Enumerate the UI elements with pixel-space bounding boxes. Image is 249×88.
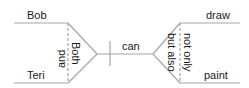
predicate-bottom-word: paint	[204, 69, 228, 81]
diagram-canvas: Bob Teri Both and can not only but also …	[0, 0, 249, 88]
subject-conjunction-and: and	[55, 50, 67, 68]
subject-top-word: Bob	[27, 9, 47, 21]
verb-word: can	[122, 40, 140, 52]
subject-conjunction-both: Both	[70, 42, 82, 65]
subject-bottom-word: Teri	[27, 69, 45, 81]
sentence-diagram: Bob Teri Both and can not only but also …	[0, 0, 249, 88]
predicate-conjunction-not-only: not only	[182, 33, 194, 72]
predicate-top-word: draw	[206, 9, 230, 21]
predicate-conjunction-but-also: but also	[166, 33, 178, 72]
